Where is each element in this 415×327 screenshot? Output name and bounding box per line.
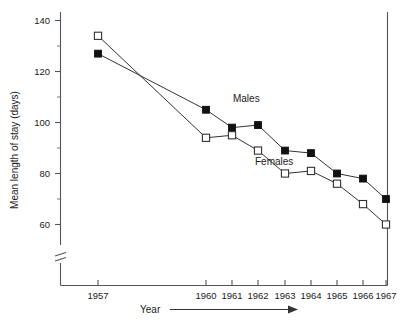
x-tick-label-1961: 1961 [221,290,242,301]
y-axis-title: Mean length of stay (days) [9,91,20,209]
data-point-males-1957 [95,50,102,57]
y-tick-label-140: 140 [34,15,50,26]
series-line-males [98,54,386,199]
data-series-layer [94,32,389,228]
y-tick-label-100: 100 [34,117,50,128]
y-tick-label-80: 80 [39,168,50,179]
series-males [95,50,390,202]
y-axis-break-icon [55,253,66,262]
x-tick-label-1964: 1964 [300,290,321,301]
data-point-females-1960 [202,134,209,141]
x-tick-label-1962: 1962 [247,290,268,301]
y-tick-label-120: 120 [34,66,50,77]
x-axis-title-group: Year [140,304,298,315]
data-point-males-1965 [334,170,341,177]
x-tick-label-1967: 1967 [375,290,396,301]
x-axis-title: Year [140,304,161,315]
data-point-females-1957 [94,32,101,39]
series-label-males: Males [233,93,260,104]
data-point-females-1962 [254,147,261,154]
y-axis-ticks [55,21,61,225]
data-point-males-1964 [308,150,315,157]
x-tick-label-1963: 1963 [274,290,295,301]
series-females [94,32,389,228]
axes-frame [61,12,388,286]
x-axis-arrow-head [288,306,298,314]
data-point-females-1963 [281,170,288,177]
data-point-females-1964 [307,167,314,174]
data-point-males-1962 [255,122,262,129]
data-point-males-1967 [383,196,390,203]
y-axis-tick-labels: 140 120 100 80 60 [34,15,50,230]
x-axis-tick-labels: 195719601961196219631964196519661967 [87,290,396,301]
x-tick-label-1965: 1965 [326,290,347,301]
data-point-females-1965 [333,180,340,187]
x-tick-label-1960: 1960 [195,290,216,301]
x-axis-ticks [98,280,386,286]
data-point-females-1961 [228,132,235,139]
data-point-males-1966 [360,175,367,182]
data-point-females-1966 [359,201,366,208]
x-tick-label-1957: 1957 [87,290,108,301]
x-tick-label-1966: 1966 [352,290,373,301]
series-line-females [98,36,386,225]
data-point-males-1960 [203,106,210,113]
data-point-females-1967 [382,221,389,228]
y-tick-label-60: 60 [39,219,50,230]
data-point-males-1961 [229,124,236,131]
line-chart-figure: 140 120 100 80 60 Mean length of stay (d… [0,0,415,327]
series-label-females: Females [255,156,293,167]
chart-canvas: 140 120 100 80 60 Mean length of stay (d… [0,0,415,327]
data-point-males-1963 [282,147,289,154]
